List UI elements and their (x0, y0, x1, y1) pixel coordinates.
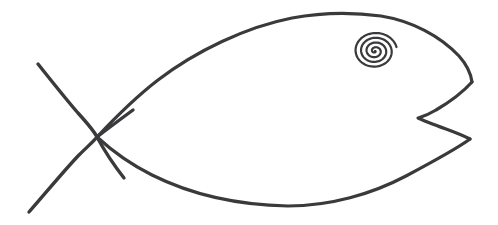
canvas-background (0, 0, 498, 225)
drawing-canvas (0, 0, 498, 225)
fish-drawing (0, 0, 498, 225)
